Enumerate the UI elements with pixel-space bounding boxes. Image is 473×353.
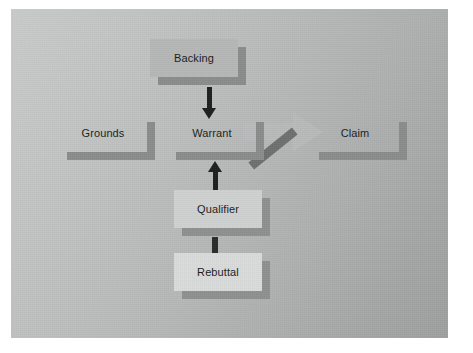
node-grounds-bottom-face (67, 152, 147, 160)
slide-surface: Backing Grounds Warrant Claim (11, 9, 448, 338)
node-warrant-label: Warrant (168, 114, 256, 152)
arrow-shaft (207, 87, 212, 109)
node-backing[interactable]: Backing (150, 39, 246, 85)
node-backing-side-face (238, 47, 246, 85)
node-warrant-side-face (256, 122, 264, 160)
arrow-head-up-icon (208, 161, 222, 172)
node-claim-label: Claim (311, 114, 399, 152)
node-qualifier[interactable]: Qualifier (174, 190, 270, 236)
node-grounds[interactable]: Grounds (59, 114, 155, 160)
node-claim-side-face (399, 122, 407, 160)
node-backing-label: Backing (150, 39, 238, 77)
page-canvas: Backing Grounds Warrant Claim (0, 0, 473, 353)
node-grounds-label: Grounds (59, 114, 147, 152)
node-claim[interactable]: Claim (311, 114, 407, 160)
node-rebuttal-side-face (262, 261, 270, 299)
node-qualifier-side-face (262, 198, 270, 236)
node-claim-bottom-face (319, 152, 399, 160)
node-warrant-bottom-face (176, 152, 256, 160)
node-qualifier-label: Qualifier (174, 190, 262, 228)
node-qualifier-bottom-face (182, 228, 262, 236)
node-backing-bottom-face (158, 77, 238, 85)
node-rebuttal[interactable]: Rebuttal (174, 253, 270, 299)
node-warrant[interactable]: Warrant (168, 114, 264, 160)
node-rebuttal-bottom-face (182, 291, 262, 299)
node-grounds-side-face (147, 122, 155, 160)
node-rebuttal-label: Rebuttal (174, 253, 262, 291)
